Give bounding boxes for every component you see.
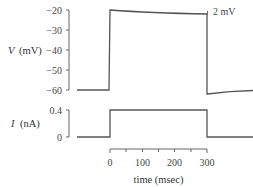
svg-text:V: V (8, 45, 16, 56)
v-tick-minus40: −40 (46, 45, 62, 56)
v-tick-minus20: −20 (46, 5, 62, 16)
x-tick-200: 200 (167, 157, 182, 168)
current-y-axis: 0.4 0 (50, 105, 70, 143)
x-tick-300: 300 (200, 157, 215, 168)
svg-text:I: I (10, 118, 15, 129)
voltage-trace (77, 10, 253, 94)
x-tick-0: 0 (108, 157, 113, 168)
current-trace (77, 110, 253, 137)
scale-bar-2mv: 2 mV (208, 6, 237, 17)
x-axis-label: time (msec) (134, 174, 184, 186)
i-tick-0: 0 (57, 132, 62, 143)
svg-text:(mV): (mV) (19, 45, 42, 57)
voltage-axis-label: V (mV) (8, 45, 42, 57)
v-tick-minus50: −50 (46, 65, 62, 76)
v-tick-minus30: −30 (46, 25, 62, 36)
i-tick-0-4: 0.4 (50, 105, 63, 116)
voltage-y-axis: −20 −30 −40 −50 −60 (46, 5, 69, 96)
x-tick-100: 100 (135, 157, 150, 168)
svg-text:2 mV: 2 mV (213, 6, 236, 17)
membrane-response-chart: −20 −30 −40 −50 −60 V (mV) 2 mV 0.4 0 I … (0, 0, 253, 187)
current-axis-label: I (nA) (10, 118, 40, 130)
time-x-axis: 0 100 200 300 time (msec) (108, 149, 215, 186)
v-tick-minus60: −60 (46, 85, 62, 96)
svg-text:(nA): (nA) (20, 118, 40, 130)
